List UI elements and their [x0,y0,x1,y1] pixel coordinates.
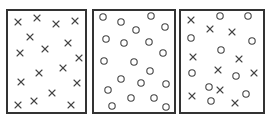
panel-circles [93,10,175,113]
panel-mixed [180,10,264,113]
panel-border [180,10,264,113]
panel-border [7,10,86,113]
panel-crosses [7,10,86,113]
three-panel-diagram [0,0,270,118]
